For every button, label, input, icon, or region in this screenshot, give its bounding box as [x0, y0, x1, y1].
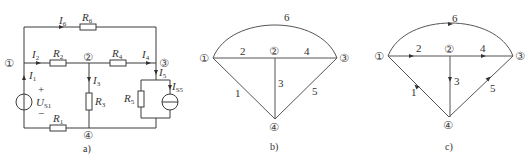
label-is5: IS5	[171, 80, 184, 94]
branch-1-label: 1	[411, 86, 417, 98]
label-r1: R1	[52, 112, 64, 126]
arrow-3-icon	[448, 77, 452, 82]
figure-canvas: ① ② ③ ④ R6 R2 R4 R3 R5 R1 I6 I2 I4 I1 I3…	[0, 0, 531, 166]
caption-b: b)	[270, 141, 278, 153]
node-4-label: ④	[269, 121, 279, 134]
arrow-i3-icon	[87, 77, 91, 82]
label-i2: I2	[31, 48, 40, 62]
node-2-label: ②	[444, 43, 454, 56]
node-1-label: ①	[199, 52, 209, 65]
label-r5: R5	[123, 92, 135, 106]
resistor-r1	[50, 125, 66, 131]
circuit-diagram-a: ① ② ③ ④ R6 R2 R4 R3 R5 R1 I6 I2 I4 I1 I3…	[4, 11, 184, 155]
label-i4: I4	[141, 48, 150, 62]
branch-5-label: 5	[312, 85, 318, 97]
node-2-label: ②	[83, 51, 93, 64]
arrow-5-icon	[485, 75, 492, 82]
branch-2-label: 2	[240, 45, 246, 57]
node-1-label: ①	[4, 57, 14, 70]
node-2-label: ②	[269, 45, 279, 58]
branch-4-label: 4	[480, 42, 486, 54]
label-minus: −	[38, 107, 44, 119]
branch-6-label: 6	[284, 11, 290, 23]
arrow-4-icon	[481, 54, 486, 58]
resistor-r2	[50, 60, 66, 66]
arrow-i5-icon	[154, 70, 158, 75]
arrow-2-icon	[409, 54, 414, 58]
caption-c: c)	[445, 141, 453, 153]
branch-6-label: 6	[452, 12, 458, 24]
branch-2-label: 2	[416, 42, 422, 54]
caption-a: a)	[83, 143, 91, 155]
branch-5-label: 5	[490, 82, 496, 94]
label-i6: I6	[58, 14, 67, 28]
label-r4: R4	[111, 47, 123, 61]
graph-diagram-c: ① ② ③ ④ 1 2 3 4 5 6 c)	[374, 12, 525, 153]
label-plus: +	[38, 83, 44, 95]
resistor-r3	[86, 93, 92, 110]
resistor-r5	[138, 91, 144, 107]
branch-4-label: 4	[304, 45, 310, 57]
branch-5	[275, 58, 337, 119]
branch-1-label: 1	[235, 87, 241, 99]
node-3-label: ③	[515, 50, 525, 63]
node-1-label: ①	[374, 50, 384, 63]
label-i3: I3	[92, 74, 101, 88]
arrow-i1-icon	[22, 75, 26, 80]
label-r2: R2	[52, 47, 64, 61]
label-i1: I1	[28, 69, 37, 83]
node-4-label: ④	[443, 119, 453, 132]
branch-3-label: 3	[278, 77, 284, 89]
branch-1	[213, 58, 275, 119]
label-r6: R6	[81, 11, 93, 25]
graph-diagram-b: ① ② ③ ④ 1 2 3 4 5 6 b)	[199, 11, 349, 153]
branch-3-label: 3	[454, 75, 460, 87]
node-4-label: ④	[83, 129, 93, 142]
label-r3: R3	[94, 95, 106, 109]
node-3-label: ③	[339, 52, 349, 65]
